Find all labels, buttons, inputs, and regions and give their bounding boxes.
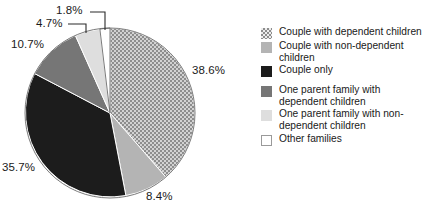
pie-value-label-4-7: 4.7% [36, 17, 63, 29]
pale-gray-swatch-icon [261, 110, 272, 121]
medium-gray-swatch-icon [261, 86, 272, 97]
leader-line-4-7 [68, 24, 86, 33]
legend-item-label: One parent family with dependent childre… [279, 84, 427, 107]
light-gray-swatch-icon [261, 42, 272, 53]
legend: Couple with dependent children Couple wi… [261, 26, 427, 147]
legend-item-other-families[interactable]: Other families [261, 133, 427, 146]
legend-item-one-parent-non-dependent-children[interactable]: One parent family with non-dependent chi… [261, 108, 427, 131]
pie-chart-svg [0, 0, 240, 214]
legend-item-label: Other families [279, 133, 342, 145]
pie-chart-figure: 38.6% 8.4% 35.7% 10.7% 4.7% 1.8% Couple … [0, 0, 427, 214]
legend-item-label: Couple only [279, 64, 333, 76]
black-swatch-icon [261, 66, 272, 77]
pie-value-label-10-7: 10.7% [11, 38, 44, 50]
legend-item-couple-only[interactable]: Couple only [261, 64, 427, 77]
legend-item-couple-dependent-children[interactable]: Couple with dependent children [261, 26, 427, 39]
pie-value-label-35-7: 35.7% [2, 161, 35, 173]
white-swatch-icon [261, 135, 272, 146]
legend-item-label: Couple with non-dependent children [279, 40, 427, 63]
legend-item-one-parent-dependent-children[interactable]: One parent family with dependent childre… [261, 84, 427, 107]
pie-value-label-38-6: 38.6% [192, 64, 225, 76]
pie-chart-area: 38.6% 8.4% 35.7% 10.7% 4.7% 1.8% [0, 0, 240, 214]
leader-line-1-8 [90, 12, 105, 30]
legend-item-label: Couple with dependent children [279, 26, 422, 38]
legend-item-label: One parent family with non-dependent chi… [279, 108, 427, 131]
pie-value-label-8-4: 8.4% [146, 190, 173, 202]
pie-value-label-1-8: 1.8% [56, 4, 83, 16]
dotted-gray-swatch-icon [261, 28, 272, 39]
legend-item-couple-non-dependent-children[interactable]: Couple with non-dependent children [261, 40, 427, 63]
